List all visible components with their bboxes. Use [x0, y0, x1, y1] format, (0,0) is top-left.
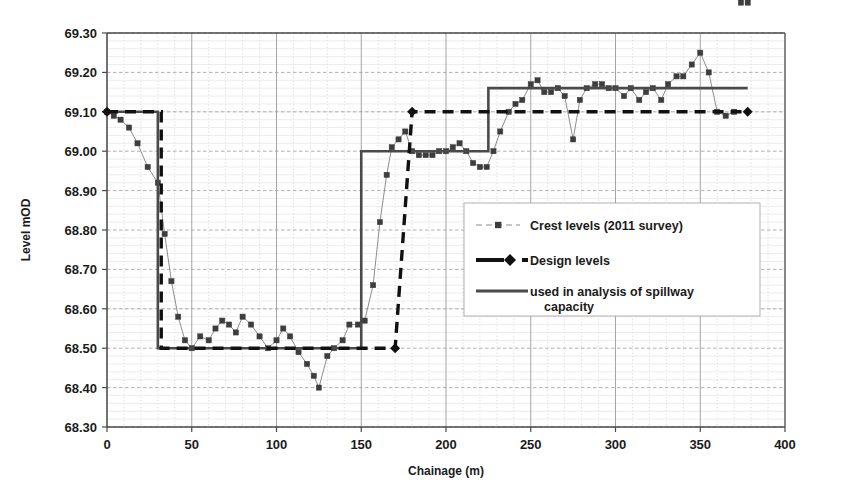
data-point-crest-levels — [213, 326, 218, 331]
data-point-crest-levels — [162, 231, 167, 236]
data-point-crest-levels — [403, 129, 408, 134]
data-point-crest-levels — [145, 164, 150, 169]
data-point-crest-levels — [355, 322, 360, 327]
data-point-crest-levels — [689, 62, 694, 67]
data-point-crest-levels — [484, 164, 489, 169]
y-axis-tick-label: 69.20 — [64, 65, 97, 80]
y-axis-tick-label: 69.00 — [64, 144, 97, 159]
data-point-crest-levels — [325, 353, 330, 358]
data-point-crest-levels — [520, 97, 525, 102]
data-point-crest-levels — [220, 318, 225, 323]
data-point-crest-levels — [416, 153, 421, 158]
data-point-crest-levels — [257, 334, 262, 339]
legend-label-crest-levels: Crest levels (2011 survey) — [530, 219, 683, 233]
data-point-crest-levels — [384, 172, 389, 177]
crest-levels-chart: 05010015020025030035040068.3068.4068.506… — [0, 0, 844, 503]
data-point-crest-levels — [248, 322, 253, 327]
y-axis-tick-label: 68.30 — [64, 420, 97, 435]
data-point-crest-levels — [240, 314, 245, 319]
data-point-crest-levels — [471, 160, 476, 165]
legend-swatch-crest-marker — [495, 222, 501, 228]
data-point-crest-levels — [206, 338, 211, 343]
y-axis-title: Level mOD — [19, 198, 33, 261]
data-point-crest-levels — [198, 334, 203, 339]
data-point-crest-levels — [430, 153, 435, 158]
data-point-crest-levels — [599, 82, 604, 87]
data-point-crest-levels — [745, 0, 750, 5]
data-point-crest-levels — [738, 0, 743, 5]
data-point-crest-levels — [362, 318, 367, 323]
data-point-crest-levels — [176, 314, 181, 319]
y-axis-tick-label: 68.80 — [64, 223, 97, 238]
data-point-crest-levels — [182, 338, 187, 343]
x-axis-tick-label: 150 — [350, 437, 372, 452]
data-point-crest-levels — [577, 97, 582, 102]
data-point-crest-levels — [311, 373, 316, 378]
data-point-crest-levels — [340, 338, 345, 343]
data-point-crest-levels — [535, 78, 540, 83]
data-point-crest-levels — [723, 113, 728, 118]
x-axis-title: Chainage (m) — [408, 464, 484, 478]
data-point-crest-levels — [562, 93, 567, 98]
y-axis-tick-label: 68.90 — [64, 184, 97, 199]
x-axis-tick-label: 250 — [520, 437, 542, 452]
y-axis-tick-label: 69.10 — [64, 105, 97, 120]
data-point-crest-levels — [118, 117, 123, 122]
x-axis-tick-label: 0 — [103, 437, 110, 452]
data-point-crest-levels — [498, 129, 503, 134]
data-point-crest-levels — [274, 338, 279, 343]
x-axis-tick-label: 350 — [689, 437, 711, 452]
data-point-crest-levels — [637, 97, 642, 102]
data-point-crest-levels — [491, 149, 496, 154]
x-axis-tick-label: 300 — [605, 437, 627, 452]
y-axis-tick-label: 68.70 — [64, 262, 97, 277]
data-point-crest-levels — [226, 322, 231, 327]
data-point-crest-levels — [304, 361, 309, 366]
data-point-crest-levels — [135, 141, 140, 146]
data-point-crest-levels — [681, 74, 686, 79]
data-point-crest-levels — [389, 145, 394, 150]
y-axis-tick-label: 68.50 — [64, 341, 97, 356]
data-point-crest-levels — [571, 137, 576, 142]
data-point-crest-levels — [528, 82, 533, 87]
data-point-crest-levels — [477, 164, 482, 169]
data-point-crest-levels — [706, 70, 711, 75]
data-point-crest-levels — [396, 137, 401, 142]
x-axis-tick-label: 100 — [266, 437, 288, 452]
data-point-crest-levels — [548, 90, 553, 95]
data-point-crest-levels — [126, 125, 131, 130]
y-axis-tick-label: 68.60 — [64, 302, 97, 317]
y-axis-tick-label: 68.40 — [64, 381, 97, 396]
x-axis-tick-label: 200 — [435, 437, 457, 452]
data-point-crest-levels — [665, 82, 670, 87]
data-point-crest-levels — [371, 283, 376, 288]
data-point-crest-levels — [621, 93, 626, 98]
data-point-crest-levels — [296, 350, 301, 355]
y-axis-tick-label: 69.30 — [64, 26, 97, 41]
data-point-crest-levels — [674, 74, 679, 79]
data-point-crest-levels — [643, 90, 648, 95]
data-point-crest-levels — [457, 141, 462, 146]
data-point-crest-levels — [316, 385, 321, 390]
data-point-crest-levels — [233, 330, 238, 335]
data-point-crest-levels — [423, 153, 428, 158]
data-point-crest-levels — [542, 90, 547, 95]
data-point-crest-levels — [287, 334, 292, 339]
data-point-crest-levels — [450, 145, 455, 150]
chart-figure: 05010015020025030035040068.3068.4068.506… — [0, 0, 844, 503]
legend-label-design-levels: Design levels — [530, 254, 610, 268]
data-point-crest-levels — [659, 97, 664, 102]
x-axis-tick-label: 50 — [185, 437, 199, 452]
data-point-crest-levels — [347, 322, 352, 327]
data-point-crest-levels — [281, 326, 286, 331]
data-point-crest-levels — [377, 220, 382, 225]
data-point-crest-levels — [169, 279, 174, 284]
data-point-crest-levels — [513, 101, 518, 106]
data-point-crest-levels — [111, 113, 116, 118]
x-axis-tick-label: 400 — [774, 437, 796, 452]
data-point-crest-levels — [593, 82, 598, 87]
data-point-crest-levels — [698, 50, 703, 55]
